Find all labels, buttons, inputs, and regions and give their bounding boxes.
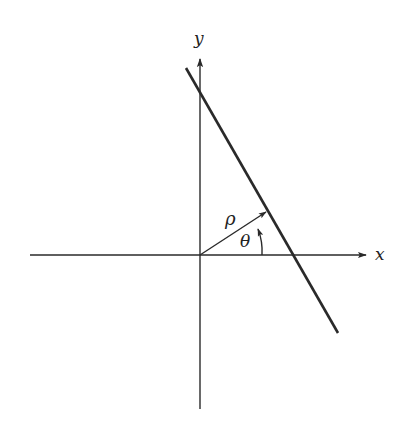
y-axis-label: y [193,28,204,48]
diagram-canvas: y x ρ θ [0,0,401,432]
theta-label: θ [240,231,250,251]
x-axis-label: x [375,244,385,264]
line [186,68,338,333]
theta-arc [258,229,262,255]
rho-label: ρ [224,208,236,229]
